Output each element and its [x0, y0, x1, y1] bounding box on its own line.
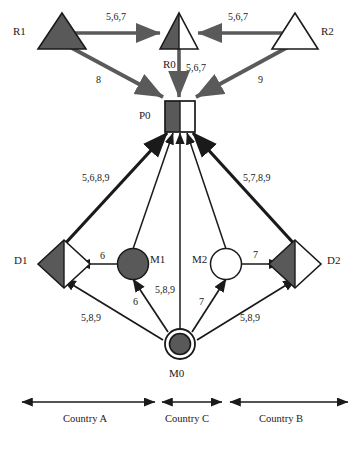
- node-P0-right-half: [180, 101, 195, 132]
- node-M0[interactable]: [165, 329, 195, 359]
- node-M1[interactable]: [118, 249, 149, 280]
- node-label-R2: R2: [321, 26, 334, 37]
- node-R2[interactable]: [272, 13, 318, 49]
- node-label-D1: D1: [14, 255, 27, 266]
- edge-m0-to-d1: [63, 279, 163, 340]
- node-label-D2: D2: [327, 255, 340, 266]
- node-P0[interactable]: [165, 101, 195, 132]
- edge-r1-to-p0: [70, 47, 163, 97]
- network-diagram: R1 R0 R2 P0 D1 M1 M2 D2 M0 5,6,7 5,6,7 8…: [0, 0, 358, 451]
- edge-m0-to-d2: [197, 279, 296, 340]
- edge-m0-to-m2: [192, 279, 226, 332]
- edge-label-m0-d2: 5,8,9: [240, 313, 260, 323]
- edge-label-m0-p0: 5,8,9: [155, 285, 175, 295]
- edge-d2-to-p0: [193, 133, 297, 247]
- node-P0-left-half: [165, 101, 180, 132]
- node-M0-inner-disc: [170, 334, 191, 355]
- edge-label-d1-p0: 5,6,8,9: [82, 173, 110, 183]
- node-D1[interactable]: [38, 240, 90, 288]
- edge-label-r1-p0: 8: [96, 75, 101, 85]
- edge-label-m0-m2: 7: [199, 297, 204, 307]
- edge-r2-to-p0: [196, 47, 288, 97]
- node-label-M1: M1: [150, 254, 165, 265]
- node-D2-left-half: [269, 240, 295, 288]
- edge-m2-to-p0: [187, 133, 226, 249]
- node-M2[interactable]: [211, 249, 242, 280]
- edge-label-m0-d1: 5,8,9: [81, 313, 101, 323]
- node-label-P0: P0: [139, 110, 151, 121]
- edge-label-m0-m1: 6: [133, 297, 138, 307]
- node-D2[interactable]: [269, 240, 321, 288]
- edge-label-r0-p0: 5,6,7: [186, 63, 206, 73]
- node-D1-right-half: [64, 240, 90, 288]
- edge-label-m1-d1: 6: [100, 251, 105, 261]
- node-D1-left-half: [38, 240, 64, 288]
- node-label-R1: R1: [13, 26, 26, 37]
- edge-d1-to-p0: [62, 133, 167, 247]
- node-R1[interactable]: [38, 13, 86, 49]
- node-label-M0: M0: [169, 368, 184, 379]
- node-label-R0: R0: [163, 59, 176, 70]
- legend-label-country-b: Country B: [259, 414, 303, 425]
- edge-label-r2-p0: 9: [258, 75, 263, 85]
- node-label-M2: M2: [192, 254, 207, 265]
- node-D2-right-half: [295, 240, 321, 288]
- edge-label-r1-r0: 5,6,7: [106, 12, 126, 22]
- legend-label-country-c: Country C: [165, 414, 209, 425]
- edge-label-d2-p0: 5,7,8,9: [243, 173, 271, 183]
- edge-label-r2-r0: 5,6,7: [228, 12, 248, 22]
- node-R0[interactable]: [160, 13, 198, 49]
- edge-label-m2-d2: 7: [253, 250, 258, 260]
- legend-label-country-a: Country A: [63, 414, 107, 425]
- diagram-canvas: [0, 0, 358, 451]
